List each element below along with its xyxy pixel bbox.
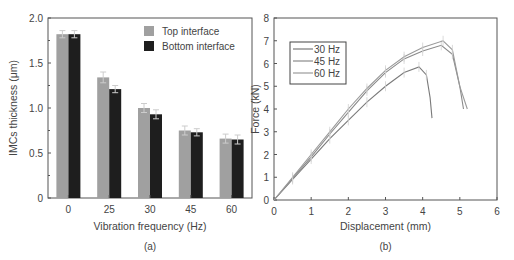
bar <box>232 140 244 199</box>
line-series <box>274 67 432 200</box>
y-tick-label: 5 <box>263 81 269 92</box>
legend-label: 30 Hz <box>314 44 340 55</box>
x-tick-label: 2 <box>346 206 352 217</box>
x-tick-label: 4 <box>420 206 426 217</box>
bar <box>56 34 68 198</box>
x-axis-label: Vibration frequency (Hz) <box>93 220 206 232</box>
legend-label: 45 Hz <box>314 56 340 67</box>
x-axis-label: Displacement (mm) <box>340 220 431 232</box>
x-tick-label: 6 <box>494 206 500 217</box>
legend-label: Top interface <box>162 26 220 37</box>
y-tick-label: 1.5 <box>29 58 43 69</box>
panel-label-b: (b) <box>379 241 391 252</box>
bar <box>109 89 121 198</box>
y-axis-label: Force (kN) <box>249 84 261 134</box>
bar <box>97 77 109 198</box>
x-tick-label: 1 <box>308 206 314 217</box>
y-tick-label: 8 <box>263 13 269 24</box>
bar <box>191 132 203 198</box>
legend-label: Bottom interface <box>162 41 235 52</box>
x-tick-label: 30 <box>144 204 156 215</box>
legend-label: 60 Hz <box>314 68 340 79</box>
x-tick-label: 45 <box>185 204 197 215</box>
y-tick-label: 1.0 <box>29 103 43 114</box>
y-tick-label: 0.5 <box>29 148 43 159</box>
bar <box>150 114 162 198</box>
bar <box>68 34 80 198</box>
x-tick-label: 25 <box>104 204 116 215</box>
y-tick-label: 0 <box>263 195 269 206</box>
y-tick-label: 2.0 <box>29 13 43 24</box>
x-tick-label: 3 <box>383 206 389 217</box>
legend-swatch <box>144 41 154 51</box>
x-tick-label: 5 <box>457 206 463 217</box>
y-tick-label: 6 <box>263 59 269 70</box>
bar <box>220 139 232 198</box>
x-tick-label: 0 <box>66 204 72 215</box>
panel-label-a: (a) <box>144 241 156 252</box>
x-tick-label: 60 <box>226 204 238 215</box>
y-tick-label: 1 <box>263 172 269 183</box>
y-axis-label: IMCs thickness (μm) <box>7 60 19 156</box>
y-tick-label: 2 <box>263 150 269 161</box>
y-tick-label: 4 <box>263 104 269 115</box>
line-chart-panel-b: 012345678012345630 Hz45 Hz60 HzDisplacem… <box>249 13 500 252</box>
bar-chart-panel-a: 00.51.01.52.0025304560Top interfaceBotto… <box>7 13 252 252</box>
y-tick-label: 3 <box>263 127 269 138</box>
figure: 00.51.01.52.0025304560Top interfaceBotto… <box>0 0 514 260</box>
bar <box>179 131 191 199</box>
x-tick-label: 0 <box>271 206 277 217</box>
y-tick-label: 7 <box>263 36 269 47</box>
bar <box>138 108 150 198</box>
legend-swatch <box>144 26 154 36</box>
y-tick-label: 0 <box>37 193 43 204</box>
